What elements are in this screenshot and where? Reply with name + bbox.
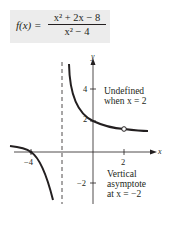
annotation-asymptote: Vertical asymptote at x = −2: [107, 169, 146, 199]
tick-y-4: 4: [83, 84, 87, 94]
tick-x-neg4: −4: [24, 157, 33, 167]
curve-left-branch: [10, 146, 53, 200]
tick-y-neg2: −2: [77, 178, 86, 188]
y-axis-label: y: [91, 52, 95, 62]
tick-y-2: 2: [83, 114, 87, 124]
x-axis-label: x: [158, 147, 162, 157]
x-intercept-point: [30, 151, 33, 154]
tick-x-2: 2: [121, 157, 125, 167]
hole-point: [122, 127, 127, 132]
x-axis-arrow-icon: [150, 150, 157, 155]
annotation-undefined: Undefined when x = 2: [104, 86, 147, 106]
